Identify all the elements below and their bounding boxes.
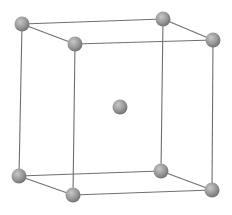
atom-center <box>113 100 128 115</box>
atom-bottom-front-right <box>205 183 220 198</box>
atom-top-front-left <box>68 37 83 52</box>
edge-bottom-back-left-to-bottom-front-left <box>19 176 73 195</box>
atom-top-front-right <box>206 33 221 48</box>
edge-top-back-left-to-top-front-left <box>22 24 75 44</box>
edge-top-back-left-to-top-back-right <box>22 19 163 24</box>
atom-bottom-back-left <box>12 169 27 184</box>
edge-bottom-back-left-to-bottom-back-right <box>19 171 161 176</box>
edge-top-front-left-to-bottom-front-left <box>73 44 75 195</box>
atom-bottom-back-right <box>154 164 169 179</box>
edge-top-front-left-to-top-front-right <box>75 40 213 44</box>
atom-bottom-front-left <box>66 188 81 203</box>
edge-top-back-left-to-bottom-back-left <box>19 24 22 176</box>
atom-top-back-right <box>156 12 171 27</box>
edge-top-front-right-to-bottom-front-right <box>212 40 213 190</box>
atom-top-back-left <box>15 17 30 32</box>
edge-bottom-back-right-to-bottom-front-right <box>161 171 212 190</box>
bcc-lattice-diagram <box>0 0 232 215</box>
edge-bottom-front-left-to-bottom-front-right <box>73 190 212 195</box>
edge-top-back-right-to-top-front-right <box>163 19 213 40</box>
